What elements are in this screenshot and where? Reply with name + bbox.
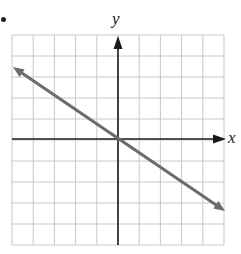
- y-axis-arrow-icon: [114, 36, 123, 49]
- coordinate-plane: [0, 0, 241, 254]
- y-axis-label: y: [112, 9, 120, 29]
- x-axis-label: x: [228, 128, 236, 148]
